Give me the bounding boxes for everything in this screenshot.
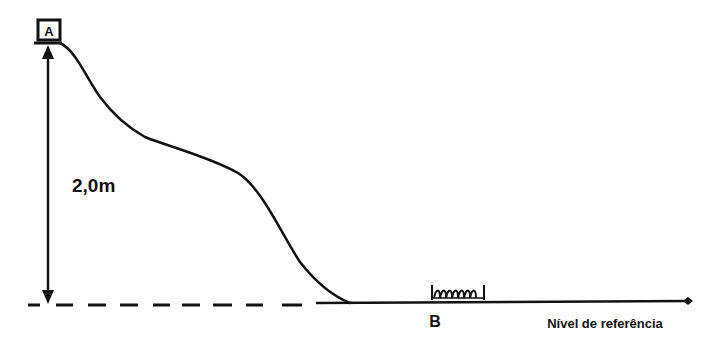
track-curve [60, 43, 350, 303]
point-a-label: A [44, 24, 54, 39]
arrow-down-icon [42, 290, 54, 304]
height-label: 2,0m [72, 175, 115, 196]
track-diagram: A 2,0m B Nível de referência [0, 0, 718, 351]
arrow-up-icon [42, 45, 54, 59]
reference-level-label: Nível de referência [547, 316, 663, 331]
spring-at-b [432, 285, 484, 300]
reference-solid-line [316, 301, 688, 303]
point-b-label: B [429, 313, 441, 330]
axis-end-diamond-icon [683, 297, 693, 305]
height-arrow [42, 45, 54, 304]
